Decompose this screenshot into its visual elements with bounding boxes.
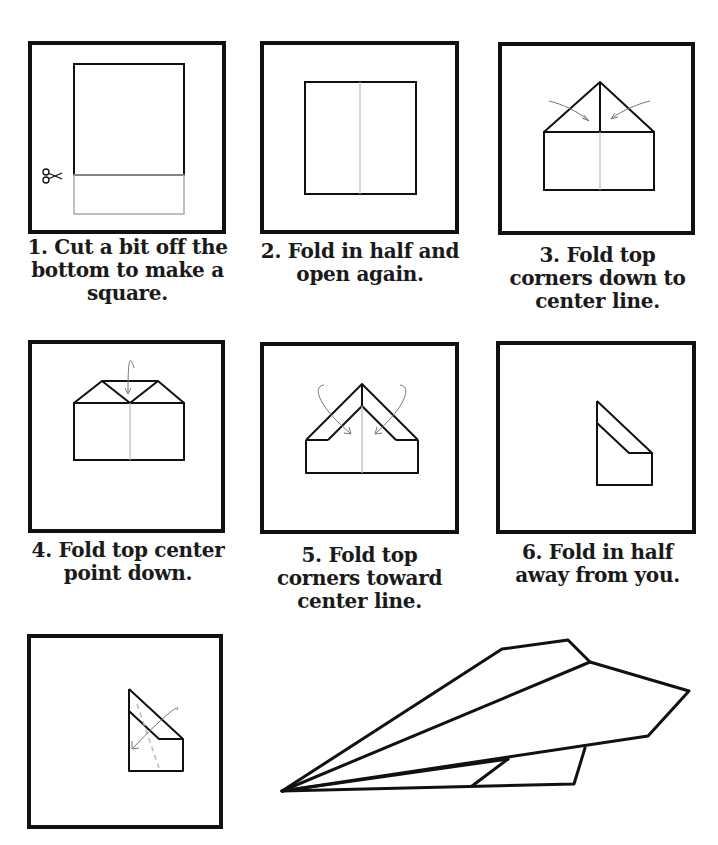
step-7-frame [27,634,223,829]
finished-airplane-illustration [260,620,718,810]
scissors-icon [43,169,62,183]
step-7-diagram [31,638,219,825]
step-6-caption: 6. Fold in half away from you. [495,541,700,587]
step-6-frame [496,341,696,534]
step-4-caption: 4. Fold top center point down. [22,539,234,585]
step-1-caption: 1. Cut a bit off the bottom to make a sq… [20,236,235,305]
step-3-diagram [502,46,691,231]
step-6-diagram [500,345,692,530]
step-5-diagram [264,346,455,530]
step-5-caption: 5. Fold top corners toward center line. [262,544,457,613]
fold-arrow-icon [125,360,134,394]
step-2-caption: 2. Fold in half and open again. [255,240,465,286]
step-2-diagram [264,45,455,230]
step-1-frame [28,41,226,234]
step-2-frame [260,41,459,234]
step-4-frame [28,340,225,533]
step-3-caption: 3. Fold top corners down to center line. [500,244,695,313]
step-3-frame [498,42,695,235]
step-5-frame [260,342,459,534]
paper-airplane-icon [260,620,718,810]
step-1-diagram [32,45,222,230]
step-4-diagram [32,344,221,529]
